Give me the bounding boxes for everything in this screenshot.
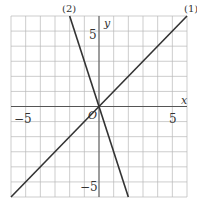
graph: x y O −5 5 5 −5 (1) (2) <box>0 0 197 207</box>
y-axis-label: y <box>103 17 111 30</box>
y-tick-5: 5 <box>89 28 97 42</box>
origin-label: O <box>88 109 97 122</box>
x-axis-label: x <box>181 94 188 107</box>
series-label-1: (1) <box>184 3 197 14</box>
series-label-2: (2) <box>62 3 76 14</box>
x-tick-5: 5 <box>169 112 177 126</box>
x-tick-neg5: −5 <box>14 112 32 126</box>
y-tick-neg5: −5 <box>80 180 98 194</box>
